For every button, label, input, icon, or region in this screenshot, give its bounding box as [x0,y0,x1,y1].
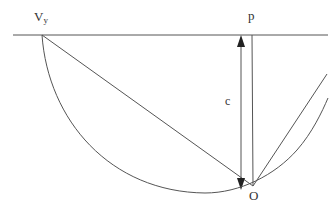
chord-vy-to-o [42,35,253,186]
label-vy-main: V [34,9,43,24]
label-o: O [249,189,258,202]
diagram-canvas [0,0,329,209]
arrow-head-up-icon [237,35,245,47]
label-p: p [248,9,255,22]
vertical-line-p [252,35,253,186]
ray-from-o [253,74,327,186]
arc [42,35,328,193]
label-vy: Vy [34,10,48,25]
label-c: c [225,95,230,107]
label-vy-subscript: y [43,15,48,25]
